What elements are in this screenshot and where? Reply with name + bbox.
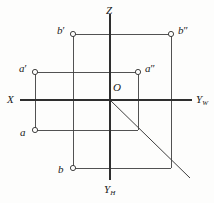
yw-axis-label: YW	[196, 94, 208, 107]
z-axis-label: Z	[106, 5, 112, 16]
point-a-front-marker	[32, 69, 37, 74]
x-axis-label: X	[7, 94, 14, 105]
point-b-side-label: b″	[178, 25, 188, 36]
point-b-front-label: b′	[57, 25, 64, 36]
point-a-top-marker	[32, 127, 37, 132]
point-b-top-label: b	[58, 164, 64, 175]
point-a-side-label: a″	[145, 63, 155, 74]
yh-axis-label: YH	[104, 184, 115, 197]
point-b-top-marker	[70, 165, 75, 170]
point-b-front-marker	[70, 31, 75, 36]
origin-label: O	[113, 82, 121, 93]
point-a-side-marker	[135, 69, 140, 74]
point-a-front-label: a′	[19, 63, 26, 74]
point-a-top-label: a	[20, 127, 26, 138]
point-b-side-marker	[168, 31, 173, 36]
projection-figure: ZYHXYWOb′b″a′a″ab	[0, 0, 214, 203]
bisector-line	[110, 100, 190, 178]
